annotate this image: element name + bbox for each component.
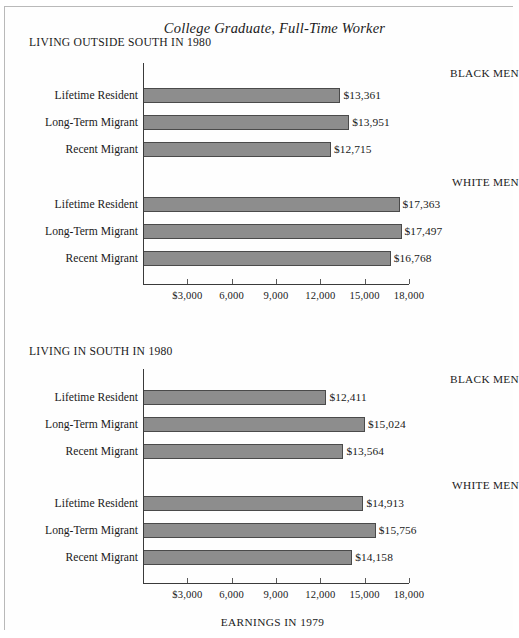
chart-title: College Graduate, Full-Time Worker — [0, 20, 519, 37]
bar-category-label: Long-Term Migrant — [0, 225, 138, 238]
axis-tick — [276, 578, 277, 583]
bar — [143, 444, 343, 459]
bar-value-label: $16,768 — [394, 252, 432, 264]
bar-category-label: Long-Term Migrant — [0, 116, 138, 129]
bar — [143, 197, 400, 212]
group-header: WHITE MEN — [381, 176, 519, 188]
axis-tick — [320, 578, 321, 583]
axis-tick — [276, 279, 277, 284]
bar-value-label: $12,411 — [329, 391, 366, 403]
figure-chart: College Graduate, Full-Time Worker LIVIN… — [0, 0, 519, 638]
axis-tick — [187, 578, 188, 583]
bar-value-label: $17,497 — [405, 225, 443, 237]
bar — [143, 523, 376, 538]
bar-value-label: $14,913 — [366, 497, 404, 509]
bar — [143, 224, 402, 239]
axis-tick-label: 6,000 — [219, 589, 244, 600]
axis-tick — [365, 279, 366, 284]
axis-tick-label: 15,000 — [349, 589, 379, 600]
bar-value-label: $13,951 — [352, 116, 390, 128]
bar-category-label: Lifetime Resident — [0, 198, 138, 211]
bar-category-label: Recent Migrant — [0, 551, 138, 564]
value-axis-line — [143, 284, 409, 285]
axis-tick-label: 9,000 — [264, 589, 289, 600]
bar-value-label: $14,158 — [355, 551, 393, 563]
category-axis-line — [143, 63, 144, 284]
bar — [143, 390, 326, 405]
bar-value-label: $15,756 — [379, 524, 417, 536]
axis-tick — [409, 578, 410, 583]
bar-category-label: Long-Term Migrant — [0, 524, 138, 537]
bar-value-label: $12,715 — [334, 143, 372, 155]
group-header: WHITE MEN — [381, 479, 519, 491]
axis-tick — [187, 279, 188, 284]
category-axis-line — [143, 369, 144, 583]
axis-tick — [365, 578, 366, 583]
bar-category-label: Recent Migrant — [0, 252, 138, 265]
axis-tick — [320, 279, 321, 284]
axis-tick-label: 18,000 — [394, 589, 424, 600]
axis-tick-label: 12,000 — [305, 589, 335, 600]
bar-category-label: Lifetime Resident — [0, 497, 138, 510]
bar — [143, 417, 365, 432]
bar-value-label: $13,361 — [343, 89, 381, 101]
bar — [143, 88, 340, 103]
axis-tick — [409, 279, 410, 284]
bar-category-label: Lifetime Resident — [0, 89, 138, 102]
axis-tick-label: $3,000 — [172, 290, 202, 301]
bar — [143, 142, 331, 157]
group-header: BLACK MEN — [381, 67, 519, 79]
bar-category-label: Long-Term Migrant — [0, 418, 138, 431]
bar — [143, 251, 391, 266]
bar-value-label: $13,564 — [346, 445, 384, 457]
axis-tick-label: $3,000 — [172, 589, 202, 600]
bar-value-label: $17,363 — [403, 198, 441, 210]
axis-tick-label: 9,000 — [264, 290, 289, 301]
axis-tick — [232, 279, 233, 284]
bar-category-label: Lifetime Resident — [0, 391, 138, 404]
panel-title: LIVING IN SOUTH IN 1980 — [29, 345, 173, 358]
value-axis-line — [143, 583, 409, 584]
bar — [143, 496, 363, 511]
bar-category-label: Recent Migrant — [0, 143, 138, 156]
axis-tick-label: 12,000 — [305, 290, 335, 301]
axis-tick-label: 18,000 — [394, 290, 424, 301]
bar-category-label: Recent Migrant — [0, 445, 138, 458]
bar-value-label: $15,024 — [368, 418, 406, 430]
group-header: BLACK MEN — [381, 373, 519, 385]
axis-tick — [232, 578, 233, 583]
bar — [143, 115, 349, 130]
axis-tick-label: 15,000 — [349, 290, 379, 301]
axis-tick-label: 6,000 — [219, 290, 244, 301]
bar — [143, 550, 352, 565]
panel-title: LIVING OUTSIDE SOUTH IN 1980 — [29, 36, 211, 49]
x-axis-caption: EARNINGS IN 1979 — [0, 616, 519, 628]
